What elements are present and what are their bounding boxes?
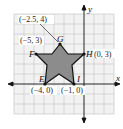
point-g-coordinate: (−2.5, 4) — [19, 15, 47, 24]
point-e-coordinate: (−4, 0) — [31, 86, 53, 95]
x-axis-left-arrow-icon — [8, 82, 13, 86]
point-i-coordinate: (−1, 0) — [61, 86, 83, 95]
y-axis-label: y — [87, 4, 92, 14]
point-e-name: E — [38, 74, 45, 84]
point-f-coordinate: (−5, 3) — [20, 36, 42, 45]
coordinate-plane-diagram: y x E F G H I (−4, 0) (−5, 3) (−2.5, 4) … — [0, 0, 123, 129]
point-f-name: F — [28, 49, 35, 59]
y-axis-up-arrow-icon — [82, 5, 86, 10]
point-g-name: G — [57, 34, 64, 44]
point-f-dot — [34, 52, 37, 55]
point-h-coordinate: (0, 3) — [94, 50, 112, 59]
x-axis-label: x — [115, 73, 120, 83]
point-h-name: H — [85, 49, 93, 59]
y-axis-down-arrow-icon — [82, 118, 86, 123]
